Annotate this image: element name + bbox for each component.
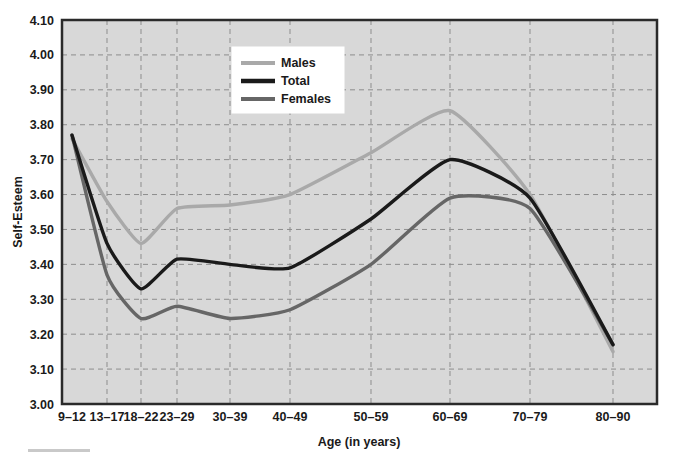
x-tick-label: 9–12 bbox=[58, 410, 86, 424]
legend-label-total: Total bbox=[281, 74, 310, 88]
legend-label-females: Females bbox=[281, 92, 331, 106]
x-tick-label: 40–49 bbox=[273, 410, 308, 424]
x-tick-label: 18–22 bbox=[124, 410, 159, 424]
footer-rule bbox=[28, 449, 90, 452]
x-tick-label: 23–29 bbox=[160, 410, 195, 424]
x-tick-label: 80–90 bbox=[596, 410, 631, 424]
y-tick-label: 3.00 bbox=[30, 398, 54, 412]
y-tick-label: 4.10 bbox=[30, 14, 54, 28]
plot-background bbox=[62, 20, 657, 404]
x-tick-label: 13–17 bbox=[90, 410, 125, 424]
x-tick-label: 30–39 bbox=[213, 410, 248, 424]
legend-label-males: Males bbox=[281, 56, 316, 70]
x-tick-label: 50–59 bbox=[354, 410, 389, 424]
y-tick-label: 3.10 bbox=[30, 363, 54, 377]
y-tick-label: 3.40 bbox=[30, 258, 54, 272]
y-tick-label: 3.90 bbox=[30, 83, 54, 97]
x-tick-label: 60–69 bbox=[433, 410, 468, 424]
y-tick-label: 3.50 bbox=[30, 223, 54, 237]
y-tick-label: 4.00 bbox=[30, 48, 54, 62]
x-tick-label: 70–79 bbox=[513, 410, 548, 424]
self-esteem-line-chart: 3.003.103.203.303.403.503.603.703.803.90… bbox=[0, 0, 673, 459]
y-tick-label: 3.80 bbox=[30, 118, 54, 132]
x-axis-title: Age (in years) bbox=[318, 435, 401, 449]
chart-figure: 3.003.103.203.303.403.503.603.703.803.90… bbox=[0, 0, 673, 459]
y-tick-label: 3.30 bbox=[30, 293, 54, 307]
y-axis-title: Self-Esteem bbox=[11, 176, 25, 248]
y-tick-label: 3.60 bbox=[30, 188, 54, 202]
y-tick-label: 3.20 bbox=[30, 328, 54, 342]
chart-legend: MalesTotalFemales bbox=[232, 47, 344, 113]
y-tick-label: 3.70 bbox=[30, 153, 54, 167]
